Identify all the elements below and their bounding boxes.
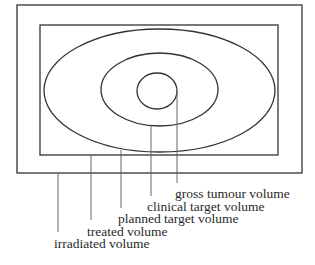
gross-volume-outline — [137, 73, 177, 109]
nested-volumes — [17, 5, 302, 173]
volume-diagram: gross tumour volumeclinical target volum… — [0, 0, 315, 265]
treated-volume-outline — [40, 25, 278, 155]
irradiated-volume-outline — [17, 5, 302, 173]
irradiated-volume-label: irradiated volume — [54, 236, 150, 251]
clinical-volume-outline — [101, 53, 218, 126]
planned-volume-outline — [44, 29, 275, 152]
volume-labels: gross tumour volumeclinical target volum… — [54, 186, 290, 251]
